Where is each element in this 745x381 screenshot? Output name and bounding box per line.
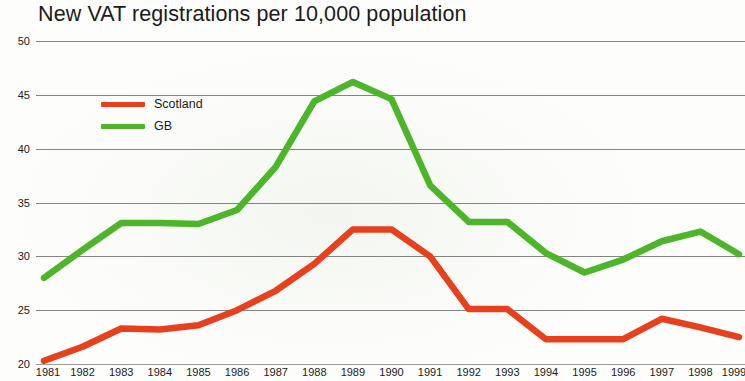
x-tick-1986: 1986 [225, 366, 249, 378]
x-tick-1997: 1997 [650, 366, 674, 378]
x-tick-1992: 1992 [456, 366, 480, 378]
y-tick-45: 45 [0, 89, 30, 101]
x-tick-1993: 1993 [495, 366, 519, 378]
x-tick-1999: 1999 [722, 366, 745, 378]
x-tick-1982: 1982 [70, 366, 94, 378]
x-tick-1995: 1995 [572, 366, 596, 378]
y-tick-20: 20 [0, 358, 30, 370]
plot-area [36, 41, 745, 364]
legend-label-gb: GB [154, 120, 172, 133]
x-tick-1989: 1989 [341, 366, 365, 378]
x-tick-1990: 1990 [379, 366, 403, 378]
x-tick-1991: 1991 [418, 366, 442, 378]
x-tick-1998: 1998 [688, 366, 712, 378]
x-tick-1985: 1985 [186, 366, 210, 378]
x-tick-1983: 1983 [109, 366, 133, 378]
y-tick-35: 35 [0, 197, 30, 209]
legend-item-gb: GB [101, 115, 221, 137]
series-lines [36, 41, 745, 364]
y-tick-30: 30 [0, 250, 30, 262]
y-axis-labels: 50454035302520 [0, 41, 30, 364]
x-tick-1981: 1981 [36, 366, 60, 378]
series-line-scotland [44, 229, 739, 360]
x-tick-1984: 1984 [148, 366, 172, 378]
chart-page: New VAT registrations per 10,000 populat… [0, 0, 745, 381]
x-axis-labels: 1981198219831984198519861987198819891990… [36, 366, 745, 381]
y-tick-25: 25 [0, 304, 30, 316]
x-tick-1988: 1988 [302, 366, 326, 378]
y-tick-40: 40 [0, 143, 30, 155]
y-tick-50: 50 [0, 35, 30, 47]
legend-swatch-scotland [101, 102, 145, 107]
legend-item-scotland: Scotland [101, 93, 221, 115]
x-tick-1994: 1994 [534, 366, 558, 378]
x-tick-1996: 1996 [611, 366, 635, 378]
gridline-20 [36, 364, 745, 365]
legend-swatch-gb [101, 124, 145, 129]
legend: Scotland GB [101, 93, 221, 137]
legend-label-scotland: Scotland [154, 98, 203, 111]
page-title: New VAT registrations per 10,000 populat… [38, 2, 467, 27]
x-tick-1987: 1987 [263, 366, 287, 378]
